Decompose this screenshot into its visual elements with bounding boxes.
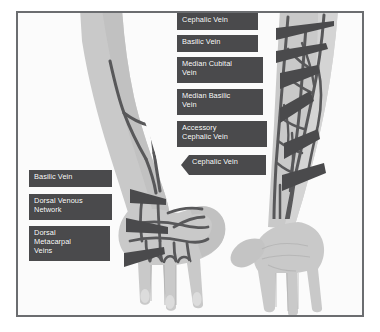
label-basilic-vein-forearm[interactable]: Basilic Vein (29, 170, 112, 187)
right-hand-palmar (231, 222, 325, 315)
label-accessory-cephalic-vein[interactable]: Accessory Cephalic Vein (177, 121, 267, 147)
right-hand-skin (254, 222, 325, 315)
label-cephalic-vein-upper[interactable]: Cephalic Vein (177, 13, 258, 30)
label-cephalic-vein-lower[interactable]: Cephalic Vein (181, 155, 266, 175)
vein-anatomy-figure: Cephalic Vein Basilic Vein Median Cubita… (0, 0, 380, 332)
label-basilic-vein-upper[interactable]: Basilic Vein (177, 35, 258, 52)
label-median-basilic-vein[interactable]: Median Basilic Vein (177, 89, 263, 115)
label-dorsal-venous-network[interactable]: Dorsal Venous Network (29, 194, 112, 220)
label-dorsal-metacarpal-veins[interactable]: Dorsal Metacarpal Veins (29, 226, 110, 261)
label-median-cubital-vein[interactable]: Median Cubital Vein (177, 57, 263, 83)
